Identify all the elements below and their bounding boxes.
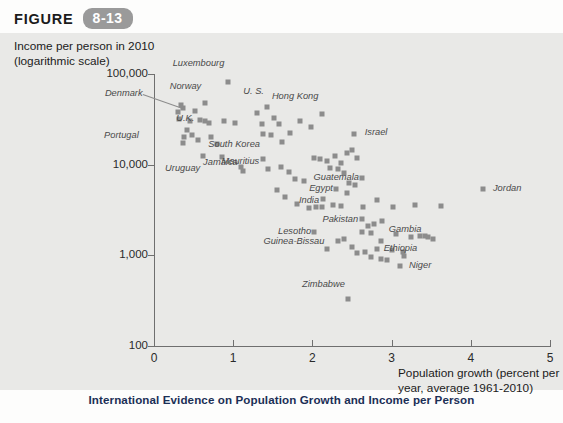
data-point-label: Norway xyxy=(170,81,202,91)
data-point xyxy=(324,158,329,163)
y-axis-line xyxy=(154,74,155,346)
data-point-label: Mauritius xyxy=(222,156,260,166)
data-point xyxy=(321,196,326,201)
y-tick-mark xyxy=(148,165,155,166)
data-point xyxy=(232,120,237,125)
data-point xyxy=(259,122,264,127)
data-point xyxy=(369,254,374,259)
data-point-label: Niger xyxy=(409,260,431,270)
data-point xyxy=(327,165,332,170)
x-tick-label: 3 xyxy=(388,351,395,365)
data-point-label: U.K. xyxy=(176,113,194,123)
data-point-label: Ethiopia xyxy=(384,243,418,253)
data-point xyxy=(361,205,366,210)
data-point xyxy=(280,139,285,144)
y-tick-label: 100,000 xyxy=(56,67,148,79)
data-point xyxy=(269,133,274,138)
data-point xyxy=(338,160,343,165)
data-point xyxy=(378,257,383,262)
data-point xyxy=(430,237,435,242)
data-point-label: Luxembourg xyxy=(173,58,225,68)
data-point-label: U. S. xyxy=(243,86,264,96)
x-axis-line xyxy=(154,346,550,347)
data-point xyxy=(318,157,323,162)
data-point xyxy=(372,222,377,227)
data-point-labeled xyxy=(334,186,339,191)
data-point xyxy=(380,218,385,223)
data-point xyxy=(274,188,279,193)
data-point xyxy=(313,205,318,210)
data-point xyxy=(345,190,350,195)
data-point-label: Pakistan xyxy=(323,214,359,224)
y-axis-title-line1: Income per person in 2010 xyxy=(14,39,154,54)
data-point-labeled xyxy=(375,247,380,252)
data-point xyxy=(330,202,335,207)
y-tick-label: 10,000 xyxy=(56,158,148,170)
data-point xyxy=(308,125,313,130)
data-point xyxy=(297,119,302,124)
data-point-label: Portugal xyxy=(104,130,139,140)
data-point-labeled xyxy=(346,296,351,301)
scatter-plot-panel: Income per person in 2010 (logarithmic s… xyxy=(0,33,563,390)
data-point-labeled xyxy=(325,246,330,251)
data-point xyxy=(190,133,195,138)
data-point xyxy=(413,202,418,207)
data-point-labeled xyxy=(261,131,266,136)
x-tick-mark xyxy=(471,340,472,347)
data-point xyxy=(221,119,226,124)
caption-title: International Evidence on Population Gro… xyxy=(0,393,563,406)
y-tick-mark xyxy=(148,74,155,75)
data-point xyxy=(292,176,297,181)
data-point xyxy=(338,204,343,209)
data-point xyxy=(180,140,185,145)
data-point xyxy=(266,166,271,171)
data-point xyxy=(185,128,190,133)
data-point xyxy=(288,130,293,135)
y-axis-title-line2: (logarithmic scale) xyxy=(14,54,154,69)
data-point-labeled xyxy=(319,205,324,210)
data-point xyxy=(378,238,383,243)
data-point-labeled xyxy=(480,186,485,191)
data-point xyxy=(350,148,355,153)
data-point xyxy=(438,204,443,209)
data-point xyxy=(335,238,340,243)
data-point xyxy=(307,206,312,211)
data-point xyxy=(277,122,282,127)
data-point xyxy=(195,138,200,143)
figure-header: FIGURE 8-13 xyxy=(14,8,133,29)
x-tick-label: 4 xyxy=(467,351,474,365)
data-point-labeled xyxy=(422,233,427,238)
data-point xyxy=(342,236,347,241)
data-point-label: Guinea-Bissau xyxy=(263,236,324,246)
x-axis-title-line1: Population growth (percent per xyxy=(398,366,559,381)
data-point xyxy=(353,182,358,187)
data-point-labeled xyxy=(359,217,364,222)
data-point xyxy=(302,179,307,184)
data-point-label: Israel xyxy=(365,127,388,137)
x-tick-label: 2 xyxy=(309,351,316,365)
data-point xyxy=(207,120,212,125)
data-point xyxy=(359,230,364,235)
data-point xyxy=(283,194,288,199)
data-point-labeled xyxy=(351,131,356,136)
data-point-labeled xyxy=(319,112,324,117)
data-point-labeled xyxy=(260,157,265,162)
x-tick-mark xyxy=(233,340,234,347)
data-point xyxy=(350,244,355,249)
data-point-labeled xyxy=(311,230,316,235)
figure-caption: International Evidence on Population Gro… xyxy=(0,393,563,409)
data-point-labeled xyxy=(397,264,402,269)
y-tick-mark xyxy=(148,255,155,256)
x-tick-label: 0 xyxy=(151,351,158,365)
x-tick-label: 5 xyxy=(547,351,554,365)
data-point-label: Jordan xyxy=(493,183,521,193)
data-point-labeled xyxy=(225,79,230,84)
data-point-label: South Korea xyxy=(208,139,260,149)
data-point xyxy=(286,170,291,175)
data-point xyxy=(408,234,413,239)
data-point xyxy=(369,231,374,236)
x-axis-title: Population growth (percent per year, ave… xyxy=(398,366,559,395)
figure-page: FIGURE 8-13 Income per person in 2010 (l… xyxy=(0,0,563,423)
data-point-label: Denmark xyxy=(105,88,143,98)
x-tick-mark xyxy=(154,340,155,347)
